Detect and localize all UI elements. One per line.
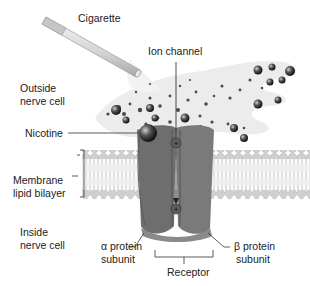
label-nicotine: Nicotine: [25, 127, 63, 139]
ion-symbol-top: +: [174, 139, 179, 148]
label-outside-line1: Outside: [20, 82, 56, 94]
label-alpha-line1: α protein: [101, 240, 142, 252]
label-beta-line2: subunit: [236, 253, 270, 265]
label-beta-line1: β protein: [234, 240, 275, 252]
label-outside-line2: nerve cell: [20, 95, 65, 107]
label-alpha-line2: subunit: [101, 253, 135, 265]
label-inside-line1: Inside: [20, 226, 48, 238]
label-membrane-line1: Membrane: [13, 174, 63, 186]
label-membrane-line2: lipid bilayer: [13, 187, 66, 199]
ion-symbol-bottom: +: [174, 205, 179, 214]
label-cigarette: Cigarette: [78, 12, 121, 24]
cigarette-icon: [42, 17, 142, 78]
label-inside-line2: nerve cell: [20, 239, 65, 251]
label-ion-channel: Ion channel: [148, 45, 202, 57]
nicotine-molecule-bound: [139, 124, 157, 142]
label-receptor: Receptor: [167, 266, 210, 278]
